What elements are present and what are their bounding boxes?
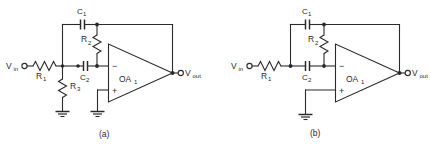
vin-label-a: V (6, 61, 12, 71)
capacitor-c2-b (306, 61, 310, 71)
r3-label-a: R (70, 81, 76, 91)
opamp-sub-b: 1 (361, 79, 365, 85)
input-terminal-b[interactable] (247, 63, 252, 68)
opamp-triangle-b (336, 44, 400, 102)
ground-symbol-a-2 (91, 112, 105, 117)
vout-sub-b: out (420, 73, 429, 79)
r1-sub-b: 1 (268, 76, 272, 82)
input-terminal-a[interactable] (22, 63, 27, 68)
opamp-label-a: OA (119, 74, 132, 84)
r2-label-a: R (81, 34, 87, 44)
resistor-r1-b (258, 62, 281, 71)
circuit-a: V in R 1 R 3 (6, 7, 201, 139)
opamp-triangle-a (109, 44, 173, 102)
inverting-input-sign-b: − (339, 61, 344, 71)
output-terminal-b[interactable] (405, 70, 410, 75)
capacitor-c2-a (84, 61, 88, 71)
c2-sub-a: 2 (86, 77, 90, 83)
c2-sub-b: 2 (308, 77, 312, 83)
caption-a: (a) (99, 129, 110, 139)
capacitor-c1-a (81, 20, 85, 30)
opamp-sub-a: 1 (134, 79, 138, 85)
capacitor-c1-b (306, 20, 310, 30)
output-terminal-a[interactable] (178, 70, 183, 75)
vin-label-b: V (231, 61, 237, 71)
r2-sub-a: 2 (88, 40, 92, 46)
vout-label-a: V (185, 68, 191, 78)
resistor-r2-a (93, 35, 101, 54)
r2-label-b: R (308, 34, 314, 44)
vout-label-b: V (412, 68, 418, 78)
circuit-b: V in R 1 C 1 R 2 (231, 7, 428, 138)
noninverting-input-sign-b: + (339, 86, 344, 96)
c1-sub-b: 1 (308, 11, 312, 17)
opamp-label-b: OA (346, 74, 359, 84)
resistor-r3-a (59, 79, 67, 98)
r1-sub-a: 1 (43, 76, 47, 82)
c1-sub-a: 1 (83, 11, 87, 17)
vin-sub-b: in (239, 66, 244, 72)
r2-sub-b: 2 (315, 40, 319, 46)
node-inverting-b (322, 64, 326, 68)
noninverting-input-sign-a: + (112, 86, 117, 96)
caption-b: (b) (310, 128, 321, 138)
vout-sub-a: out (193, 73, 202, 79)
r1-label-b: R (261, 71, 267, 81)
circuit-diagrams-svg: V in R 1 R 3 (0, 0, 431, 146)
node-inverting-a (95, 64, 99, 68)
ground-symbol-a-1 (56, 112, 70, 117)
resistor-r1-a (33, 62, 56, 71)
vin-sub-a: in (14, 66, 19, 72)
inverting-input-sign-a: − (112, 61, 117, 71)
figure-root: V in R 1 R 3 (0, 0, 431, 146)
resistor-r2-b (320, 35, 328, 54)
ground-symbol-b-1 (299, 115, 313, 120)
r1-label-a: R (36, 71, 42, 81)
r3-sub-a: 3 (77, 86, 81, 92)
